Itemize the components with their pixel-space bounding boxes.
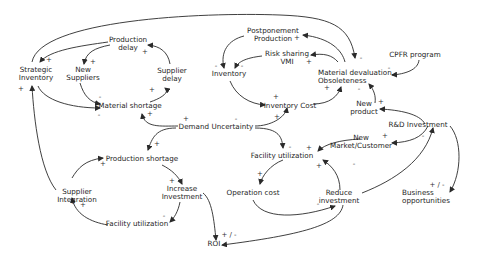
node-reduce-investment: Reduceinvestment bbox=[319, 189, 360, 205]
sign-minus: - bbox=[241, 63, 244, 70]
sign-minus: - bbox=[235, 116, 238, 123]
node-demand-uncertainty: Demand Uncertainty bbox=[179, 123, 254, 131]
sign-minus: - bbox=[289, 144, 292, 151]
sign-plus: + bbox=[142, 49, 148, 56]
node-operation-cost: Operation cost bbox=[227, 189, 280, 197]
sign-minus: - bbox=[388, 65, 391, 72]
node-risk-sharing-vmi: Risk sharingVMI bbox=[265, 50, 309, 66]
sign-plus-minus: + / - bbox=[221, 232, 236, 239]
node-business-opportunities: Businessopportunities bbox=[402, 189, 450, 205]
node-facility-utilization-right: Facility utilization bbox=[251, 152, 314, 160]
sign-minus: - bbox=[353, 161, 356, 168]
sign-minus: - bbox=[163, 213, 166, 220]
sign-minus: - bbox=[422, 133, 425, 140]
sign-plus: + bbox=[382, 133, 388, 140]
sign-plus: + bbox=[183, 116, 189, 123]
sign-plus: + bbox=[306, 145, 312, 152]
node-increase-investment: IncreaseInvestment bbox=[162, 185, 203, 201]
sign-plus: + bbox=[324, 85, 330, 92]
sign-plus: + bbox=[46, 57, 52, 64]
sign-minus: - bbox=[99, 94, 102, 101]
sign-plus: + bbox=[316, 163, 322, 170]
sign-plus: + bbox=[169, 178, 175, 185]
sign-plus: + bbox=[80, 202, 86, 209]
sign-minus: - bbox=[215, 63, 218, 70]
sign-plus-minus: + / - bbox=[429, 182, 444, 189]
sign-plus: + bbox=[273, 94, 279, 101]
node-supplier-integration: SupplierIntegration bbox=[57, 188, 97, 204]
sign-plus: + bbox=[149, 87, 155, 94]
sign-minus: - bbox=[98, 112, 101, 119]
node-inventory-cost: Inventory Cost bbox=[264, 102, 317, 110]
sign-minus: - bbox=[360, 55, 363, 62]
sign-plus: + bbox=[274, 114, 280, 121]
node-cpfr-program: CPFR program bbox=[389, 51, 440, 59]
sign-plus: + bbox=[154, 141, 160, 148]
node-supplier-delay: Supplierdelay bbox=[157, 67, 187, 83]
sign-plus: + bbox=[18, 86, 24, 93]
sign-plus: + bbox=[294, 35, 300, 42]
node-new-product: Newproduct bbox=[350, 100, 378, 116]
node-inventory: Inventory bbox=[212, 70, 246, 78]
node-strategic-inventory: StrategicInventory bbox=[19, 66, 53, 82]
sign-plus: + bbox=[90, 59, 96, 66]
sign-plus: + bbox=[147, 111, 153, 118]
node-production-shortage: Production shortage bbox=[106, 155, 178, 163]
causal-loop-diagram: StrategicInventory Productiondelay NewSu… bbox=[0, 0, 482, 259]
sign-plus: + bbox=[100, 161, 106, 168]
node-rd-investment: R&D Investment bbox=[388, 121, 447, 129]
sign-minus: - bbox=[358, 86, 361, 93]
node-postponement-production: PostponementProduction bbox=[247, 27, 299, 43]
node-facility-utilization-left: Facility utilization bbox=[106, 220, 169, 228]
node-roi: ROI bbox=[208, 240, 221, 248]
sign-plus: + bbox=[257, 171, 263, 178]
sign-plus: + bbox=[378, 99, 384, 106]
node-new-suppliers: NewSuppliers bbox=[66, 66, 99, 82]
sign-plus: + bbox=[306, 59, 312, 66]
sign-minus: - bbox=[317, 201, 320, 208]
